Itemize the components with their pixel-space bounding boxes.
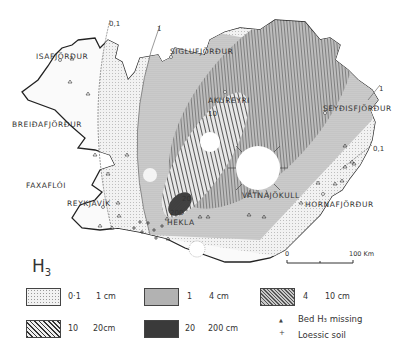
legend-swatch-10-20cm	[26, 320, 61, 338]
legend-from: 10	[68, 324, 78, 333]
legend-from: 1	[187, 292, 192, 301]
legend-swatch-1-4cm	[144, 288, 179, 306]
place-label: REYKJAVÍK	[67, 199, 111, 208]
legend-from: 4	[303, 292, 308, 301]
isopach-label: 0,1	[373, 145, 384, 153]
legend-swatch-0.1-1cm	[26, 288, 61, 306]
legend-to: 1 cm	[96, 292, 116, 301]
isopach-label: 10	[208, 110, 217, 118]
map-title: H3	[32, 256, 51, 278]
place-label: HEKLA	[167, 218, 195, 227]
legend-to: 20cm	[93, 324, 115, 333]
place-label: AKUREYRI	[208, 96, 250, 105]
legend-from: 0·1	[68, 292, 81, 301]
glacier-myrdalsjokull	[189, 241, 205, 257]
triangle-icon: ▲	[279, 317, 283, 323]
scale-end-label: 100 Km	[349, 250, 374, 258]
legend-swatch-4-10cm	[260, 288, 295, 306]
isopach-label: 1	[379, 85, 383, 93]
place-label: SIGLUFJÖRÐUR	[170, 47, 233, 56]
place-label: VATNAJÖKULL	[242, 191, 300, 200]
isopach-label: 0,1	[109, 20, 120, 28]
place-label: HORNAFJÖRÐUR	[305, 200, 374, 209]
isopach-label: 1	[157, 25, 161, 33]
place-label: ISAFJÖRÐUR	[36, 52, 88, 61]
scale-bar	[287, 260, 353, 263]
legend-to: 200 cm	[208, 324, 238, 333]
legend-symbol-label: Bed H₃ missing	[298, 314, 362, 324]
legend-to: 10 cm	[325, 292, 350, 301]
scale-start-label: 0	[285, 250, 289, 258]
glacier-langjokull	[143, 168, 157, 182]
place-label: SEYÐISFJÖRÐUR	[323, 104, 392, 113]
legend-symbol-label: Loessic soil	[298, 330, 346, 340]
place-label: FAXAFLÓI	[26, 181, 66, 190]
legend-swatch-20-200cm	[144, 320, 179, 338]
cross-icon: +	[279, 329, 285, 337]
isopach-label: 200	[170, 209, 183, 217]
isopach-label: 20	[182, 195, 191, 203]
legend-to: 4 cm	[209, 292, 229, 301]
place-label: BREIÐAFJÖRÐUR	[12, 120, 82, 129]
legend-from: 20	[185, 324, 195, 333]
glacier-hofsjokull	[200, 132, 220, 152]
